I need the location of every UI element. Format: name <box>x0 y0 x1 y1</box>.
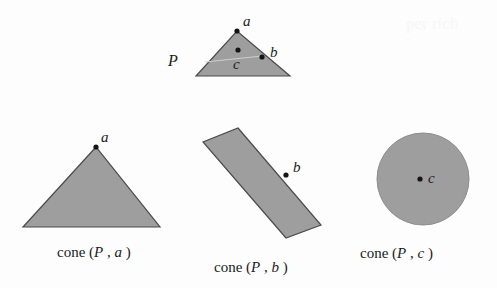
label-point-a-cone: a <box>101 130 109 145</box>
caption-point-b: b <box>271 259 279 275</box>
caption-comma-a: , <box>103 244 114 260</box>
caption-comma-c: , <box>406 245 417 261</box>
point-a-cone <box>93 144 98 149</box>
caption-region-c: P <box>397 245 406 261</box>
caption-cone-P-c: cone (P , c ) <box>360 246 433 261</box>
caption-suffix-c: ) <box>424 245 433 261</box>
caption-suffix-b: ) <box>279 259 288 275</box>
label-point-b-top: b <box>270 45 278 60</box>
label-point-a-top: a <box>243 14 251 29</box>
caption-prefix-c: cone ( <box>360 245 397 261</box>
caption-point-a: a <box>114 244 122 260</box>
caption-cone-P-a: cone (P , a ) <box>57 245 131 260</box>
point-c-top <box>235 47 240 52</box>
caption-region-a: P <box>94 244 103 260</box>
caption-region-b: P <box>251 259 260 275</box>
point-b-cone <box>283 172 288 177</box>
shape-cone-P-b <box>203 128 321 238</box>
point-b-top <box>259 54 264 59</box>
label-point-c-top: c <box>233 57 240 72</box>
label-point-c-cone: c <box>428 171 435 186</box>
point-a-top <box>234 28 239 33</box>
shape-cone-P-c <box>377 133 469 225</box>
caption-comma-b: , <box>260 259 271 275</box>
shape-cone-P-a <box>23 147 160 227</box>
label-point-b-cone: b <box>293 160 301 175</box>
caption-suffix-a: ) <box>122 244 131 260</box>
caption-prefix-b: cone ( <box>214 259 251 275</box>
point-c-cone <box>417 176 422 181</box>
cone-figure: per rich a b c P a b c cone (P , a ) con… <box>0 0 497 288</box>
caption-prefix-a: cone ( <box>57 244 94 260</box>
label-region-P: P <box>168 53 178 69</box>
caption-cone-P-b: cone (P , b ) <box>214 260 288 275</box>
